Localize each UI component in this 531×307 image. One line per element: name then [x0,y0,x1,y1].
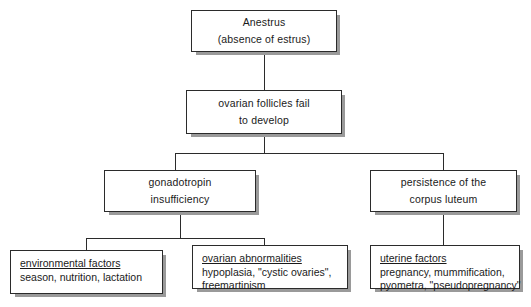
connector-to-corpus-luteum [443,153,444,170]
node-ovarian-follicles-fail: ovarian follicles fail to develop [186,90,342,134]
flowchart-canvas: Anestrus (absence of estrus) ovarian fol… [0,0,531,307]
connector-to-gonadotropin [175,153,176,170]
node-ovarian-line2: freemartinism [202,279,266,292]
node-environmental-line1: season, nutrition, lactation [20,271,142,284]
node-follicles-line1: ovarian follicles fail [218,95,309,112]
node-environmental-heading: environmental factors [20,257,120,270]
node-gonadotropin-insufficiency: gonadotropin insufficiency [104,170,256,212]
connector-split-level2 [86,238,265,239]
node-environmental-factors: environmental factors season, nutrition,… [10,250,163,294]
connector-anestrus-to-follicles [264,52,265,90]
node-ovarian-abnormalities: ovarian abnormalities hypoplasia, "cysti… [192,245,348,289]
node-ovarian-line1: hypoplasia, "cystic ovaries", [202,266,331,279]
node-anestrus-line2: (absence of estrus) [218,31,311,48]
node-gonadotropin-line1: gonadotropin [148,174,211,191]
node-persistence-corpus-luteum: persistence of the corpus luteum [370,170,517,212]
connector-to-environmental [86,238,87,250]
node-ovarian-heading: ovarian abnormalities [202,252,302,265]
node-uterine-factors: uterine factors pregnancy, mummification… [370,245,520,289]
node-uterine-line2: pyometra, "pseudopregnancy" [380,279,521,292]
node-follicles-line2: to develop [239,112,289,129]
node-anestrus: Anestrus (absence of estrus) [191,10,337,52]
node-uterine-line1: pregnancy, mummification, [380,266,505,279]
connector-follicles-trunk [264,134,265,153]
connector-to-uterine [443,212,444,245]
connector-split-level1 [175,153,444,154]
connector-to-ovarian [264,238,265,245]
connector-gonadotropin-trunk [180,212,181,238]
node-gonadotropin-line2: insufficiency [151,191,210,208]
node-uterine-heading: uterine factors [380,252,447,265]
node-corpus-line1: persistence of the [401,174,487,191]
node-anestrus-line1: Anestrus [243,14,286,31]
node-corpus-line2: corpus luteum [410,191,478,208]
